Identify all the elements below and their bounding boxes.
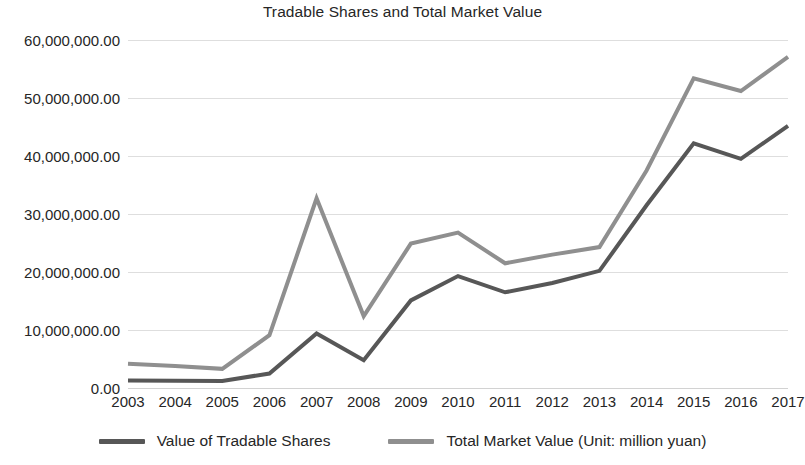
y-tick-label: 0.00 (0, 380, 120, 397)
legend-swatch-icon (99, 439, 145, 444)
x-tick-label: 2006 (253, 393, 286, 410)
x-tick-label: 2016 (724, 393, 757, 410)
y-tick-label: 30,000,000.00 (0, 206, 120, 223)
x-tick-label: 2004 (158, 393, 191, 410)
x-tick-label: 2003 (111, 393, 144, 410)
x-tick-label: 2005 (206, 393, 239, 410)
y-tick-label: 10,000,000.00 (0, 322, 120, 339)
y-tick-label: 20,000,000.00 (0, 264, 120, 281)
x-tick-label: 2011 (489, 393, 521, 410)
x-tick-label: 2014 (630, 393, 663, 410)
legend-item[interactable]: Total Market Value (Unit: million yuan) (388, 432, 706, 450)
y-tick-label: 50,000,000.00 (0, 90, 120, 107)
y-tick-label: 40,000,000.00 (0, 148, 120, 165)
y-tick-label: 60,000,000.00 (0, 32, 120, 49)
plot-area (128, 40, 788, 388)
x-tick-label: 2013 (583, 393, 616, 410)
x-tick-label: 2017 (771, 393, 804, 410)
x-tick-label: 2008 (347, 393, 380, 410)
chart-title: Tradable Shares and Total Market Value (0, 3, 805, 21)
legend-item[interactable]: Value of Tradable Shares (99, 432, 331, 450)
x-tick-label: 2012 (536, 393, 569, 410)
x-tick-label: 2015 (677, 393, 710, 410)
x-tick-label: 2007 (300, 393, 333, 410)
legend-swatch-icon (388, 439, 434, 444)
legend-label: Total Market Value (Unit: million yuan) (446, 432, 706, 450)
x-tick-label: 2009 (394, 393, 427, 410)
y-axis-labels: 0.0010,000,000.0020,000,000.0030,000,000… (0, 40, 120, 388)
x-axis-labels: 2003200420052006200720082009201020112012… (128, 393, 788, 417)
series-line (128, 57, 788, 369)
gridline (128, 388, 788, 389)
series-lines (128, 40, 788, 388)
chart-legend: Value of Tradable SharesTotal Market Val… (0, 432, 805, 450)
series-line (128, 126, 788, 381)
x-tick-label: 2010 (441, 393, 474, 410)
chart-container: Tradable Shares and Total Market Value 0… (0, 0, 805, 465)
legend-label: Value of Tradable Shares (157, 432, 331, 450)
